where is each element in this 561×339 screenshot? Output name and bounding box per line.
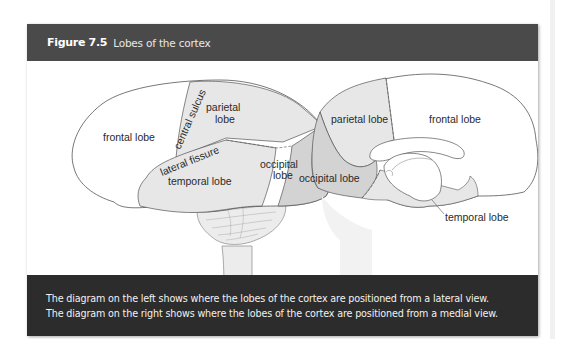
- label-parietal-lobe-2: lobe: [215, 113, 235, 125]
- medial-brain-diagram: parietal lobe frontal lobe occipital lob…: [299, 74, 538, 275]
- figure-number: Figure 7.5: [47, 36, 107, 49]
- figure-caption: The diagram on the left shows where the …: [27, 275, 538, 336]
- caption-line-1: The diagram on the left shows where the …: [46, 291, 538, 306]
- label-temporal-lobe: temporal lobe: [445, 211, 509, 223]
- page-side-strip: [550, 0, 555, 339]
- lateral-brain-diagram: frontal lobe central sulcus parietal lob…: [72, 80, 332, 275]
- label-frontal-lobe: frontal lobe: [429, 113, 481, 125]
- label-parietal-lobe-1: parietal: [206, 101, 240, 113]
- label-occipital-lobe: occipital lobe: [299, 172, 360, 184]
- label-parietal-lobe: parietal lobe: [331, 113, 388, 125]
- brain-diagrams: frontal lobe central sulcus parietal lob…: [27, 61, 538, 275]
- label-frontal-lobe: frontal lobe: [103, 131, 155, 143]
- label-temporal-lobe: temporal lobe: [168, 175, 232, 187]
- figure-card: Figure 7.5 Lobes of the cortex: [27, 24, 538, 336]
- caption-line-2: The diagram on the right shows where the…: [46, 306, 538, 321]
- figure-illustration: frontal lobe central sulcus parietal lob…: [27, 61, 538, 275]
- figure-title: Lobes of the cortex: [113, 37, 210, 49]
- figure-header: Figure 7.5 Lobes of the cortex: [27, 24, 538, 61]
- label-occipital-lobe-2: lobe: [273, 169, 293, 181]
